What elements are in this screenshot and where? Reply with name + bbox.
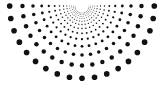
- data-point: [96, 22, 98, 24]
- data-point: [75, 16, 76, 17]
- data-point: [72, 9, 73, 10]
- data-point: [81, 45, 84, 48]
- data-point: [67, 11, 68, 12]
- data-point: [90, 15, 91, 16]
- data-point: [72, 17, 73, 18]
- data-point: [76, 9, 77, 10]
- data-point: [41, 12, 44, 15]
- data-point: [75, 11, 76, 12]
- data-point: [125, 42, 129, 46]
- data-point: [101, 39, 104, 42]
- data-point: [67, 42, 70, 45]
- data-point: [64, 20, 66, 22]
- data-point: [48, 11, 50, 13]
- data-point: [94, 42, 97, 45]
- data-point: [67, 8, 68, 9]
- data-point: [118, 36, 122, 40]
- data-point: [81, 21, 82, 22]
- data-point: [80, 14, 81, 15]
- data-point: [56, 47, 60, 51]
- data-point: [93, 20, 94, 21]
- data-point: [88, 8, 89, 9]
- data-point: [75, 6, 76, 7]
- data-point: [85, 15, 86, 16]
- data-point: [31, 4, 35, 8]
- data-point: [92, 6, 93, 7]
- data-point: [81, 28, 83, 30]
- data-point: [104, 71, 110, 77]
- data-point: [72, 31, 74, 33]
- data-point: [102, 30, 104, 32]
- data-point: [90, 62, 94, 66]
- data-point: [85, 12, 86, 13]
- data-point: [76, 10, 77, 11]
- data-point: [110, 55, 114, 59]
- data-point: [100, 5, 101, 6]
- data-point: [75, 8, 76, 9]
- data-point: [131, 34, 135, 38]
- data-point: [93, 15, 94, 16]
- data-point: [67, 22, 69, 24]
- data-point: [90, 6, 91, 7]
- data-point: [90, 31, 92, 33]
- data-point: [77, 17, 78, 18]
- figure-canvas: [0, 0, 165, 90]
- data-point: [75, 23, 76, 24]
- data-point: [70, 15, 71, 16]
- data-point: [89, 12, 90, 13]
- data-point: [64, 12, 65, 13]
- data-point: [121, 5, 124, 8]
- data-point: [86, 13, 87, 14]
- data-point: [33, 59, 39, 65]
- data-point: [84, 12, 85, 13]
- data-point: [118, 18, 121, 21]
- data-point: [93, 10, 94, 11]
- data-point: [91, 11, 92, 12]
- data-point: [43, 36, 47, 40]
- data-point: [96, 8, 97, 9]
- data-point: [123, 29, 127, 33]
- data-point: [74, 44, 77, 47]
- data-point: [59, 9, 61, 11]
- data-point: [120, 12, 123, 15]
- data-point: [83, 13, 84, 14]
- data-point: [71, 12, 72, 13]
- data-point: [64, 26, 66, 28]
- data-point: [82, 16, 83, 17]
- data-point: [79, 18, 80, 19]
- data-point: [107, 14, 109, 16]
- data-point: [87, 20, 88, 21]
- data-point: [69, 62, 73, 66]
- data-point: [79, 12, 80, 13]
- data-point: [55, 35, 58, 38]
- data-point: [70, 36, 72, 38]
- data-point: [101, 16, 103, 18]
- data-point: [99, 26, 101, 28]
- data-point: [68, 13, 69, 14]
- data-point: [70, 10, 71, 11]
- data-point: [76, 12, 77, 13]
- data-point: [89, 7, 90, 8]
- radial-dot-sunburst-plot: [0, 0, 165, 90]
- data-point: [82, 18, 83, 19]
- data-point: [81, 24, 82, 25]
- data-point: [92, 7, 93, 8]
- data-point: [84, 20, 85, 21]
- data-point: [94, 6, 95, 7]
- data-point: [92, 36, 94, 38]
- data-point: [80, 53, 84, 57]
- data-point: [69, 8, 70, 9]
- data-point: [92, 74, 98, 80]
- data-point: [88, 9, 89, 10]
- data-point: [75, 38, 77, 40]
- data-point: [147, 28, 153, 34]
- data-point: [72, 14, 73, 15]
- data-point: [60, 13, 62, 15]
- data-point: [38, 29, 42, 33]
- data-point: [67, 29, 69, 31]
- data-point: [63, 50, 67, 54]
- data-point: [102, 13, 104, 15]
- data-point: [50, 16, 52, 18]
- data-point: [34, 42, 38, 46]
- data-point: [21, 14, 25, 18]
